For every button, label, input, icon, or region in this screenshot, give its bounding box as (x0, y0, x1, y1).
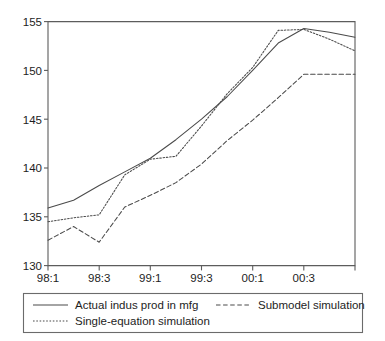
series-line-single-equation-simulation (48, 29, 355, 221)
series-line-submodel-simulation (48, 74, 355, 242)
y-tick-label-145: 145 (23, 114, 42, 126)
x-tick-label-98-1: 98:1 (37, 272, 59, 284)
x-axis-tick-labels: 98:1 98:3 99:1 99:3 00:1 00:3 (37, 272, 315, 284)
legend-label-single-equation-simulation: Single-equation simulation (75, 315, 210, 327)
x-axis-tick-marks (48, 266, 355, 271)
x-tick-label-00-1: 00:1 (242, 272, 264, 284)
x-tick-label-00-3: 00:3 (293, 272, 315, 284)
y-tick-label-135: 135 (23, 211, 42, 223)
plot-frame (48, 22, 355, 266)
x-tick-label-99-3: 99:3 (190, 272, 212, 284)
legend: Actual indus prod in mfg Submodel simula… (24, 294, 365, 333)
legend-label-actual-indus-prod-in-mfg: Actual indus prod in mfg (75, 299, 198, 311)
y-tick-label-155: 155 (23, 16, 42, 28)
y-axis-tick-marks (44, 22, 48, 266)
y-tick-label-150: 150 (23, 65, 42, 77)
y-tick-label-140: 140 (23, 162, 42, 174)
y-axis-tick-labels: 155 150 145 140 135 130 (23, 16, 42, 272)
series-line-actual-indus-prod-in-mfg (48, 28, 355, 208)
line-chart: 155 150 145 140 135 130 (0, 0, 385, 341)
legend-label-submodel-simulation: Submodel simulation (258, 299, 365, 311)
series-group (48, 28, 355, 242)
x-tick-label-99-1: 99:1 (139, 272, 161, 284)
chart-figure: 155 150 145 140 135 130 (0, 0, 385, 341)
x-tick-label-98-3: 98:3 (88, 272, 110, 284)
y-tick-label-130: 130 (23, 260, 42, 272)
